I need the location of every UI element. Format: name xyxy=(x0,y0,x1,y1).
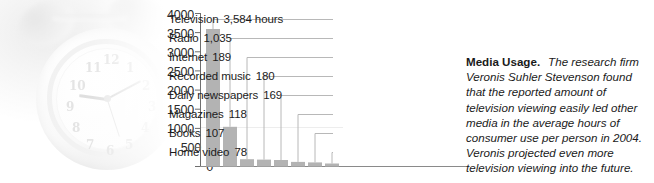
bar-internet[interactable] xyxy=(240,159,254,166)
clock-numeral-10: 10 xyxy=(69,80,86,92)
clock-numeral-5: 5 xyxy=(125,139,133,151)
callout-value-recorded-music: 180 xyxy=(256,70,275,82)
leader-line-home-video xyxy=(332,153,333,164)
caption-block: Media Usage.The research firm Veronis Su… xyxy=(466,54,652,176)
callout-label-books: Books xyxy=(169,127,200,139)
bar-home-video[interactable] xyxy=(325,164,339,167)
clock-bell-bar xyxy=(52,14,128,21)
callout-label-daily-newspapers: Daily newspapers xyxy=(169,89,258,101)
clock-numeral-7: 7 xyxy=(86,139,94,151)
callout-label-recorded-music: Recorded music xyxy=(169,70,251,82)
alarm-clock-photo: 12 1 2 3 4 5 6 7 8 9 10 11 xyxy=(0,0,166,183)
clock-numeral-9: 9 xyxy=(66,101,74,113)
callout-recorded-music[interactable]: Recorded music180 xyxy=(169,71,275,83)
callout-label-television: Television xyxy=(169,13,219,25)
clock-center-pin xyxy=(104,95,111,102)
bar-recorded-music[interactable] xyxy=(257,160,271,167)
callout-label-home-video: Home video xyxy=(169,146,229,158)
callout-daily-newspapers[interactable]: Daily newspapers169 xyxy=(169,90,282,102)
callout-value-television: 3,584 hours xyxy=(224,13,284,25)
callout-magazines[interactable]: Magazines118 xyxy=(169,109,247,121)
clock-numeral-12: 12 xyxy=(103,54,120,66)
clock-numeral-4: 4 xyxy=(141,122,149,134)
clock-numeral-6: 6 xyxy=(106,145,114,157)
callout-value-magazines: 118 xyxy=(229,108,247,120)
bar-books[interactable] xyxy=(308,162,322,166)
callout-label-magazines: Magazines xyxy=(169,108,224,120)
media-usage-figure: 12 1 2 3 4 5 6 7 8 9 10 11 4000 3500 300… xyxy=(0,0,654,183)
callout-value-books: 107 xyxy=(205,127,224,139)
callout-value-internet: 189 xyxy=(212,51,231,63)
callout-television[interactable]: Television3,584 hours xyxy=(169,14,283,26)
callout-label-internet: Internet xyxy=(169,51,207,63)
caption-body: The research firm Veronis Suhler Stevens… xyxy=(466,55,642,174)
caption-title: Media Usage. xyxy=(466,55,540,68)
bar-magazines[interactable] xyxy=(291,162,305,167)
callout-label-radio: Radio xyxy=(169,32,199,44)
leader-line-books xyxy=(315,134,333,163)
callout-home-video[interactable]: Home video78 xyxy=(169,147,247,159)
callout-value-radio: 1,035 xyxy=(204,32,232,44)
clock-numeral-3: 3 xyxy=(148,101,156,113)
clock-numeral-8: 8 xyxy=(72,122,80,134)
callout-value-daily-newspapers: 169 xyxy=(263,89,282,101)
callout-books[interactable]: Books107 xyxy=(169,128,224,140)
clock-numeral-11: 11 xyxy=(85,62,102,74)
callout-value-home-video: 78 xyxy=(234,146,247,158)
callout-radio[interactable]: Radio1,035 xyxy=(169,33,232,45)
clock-numeral-1: 1 xyxy=(126,62,134,74)
bar-daily-newspapers[interactable] xyxy=(274,160,288,167)
callout-internet[interactable]: Internet189 xyxy=(169,52,231,64)
clock-numeral-2: 2 xyxy=(142,80,150,92)
